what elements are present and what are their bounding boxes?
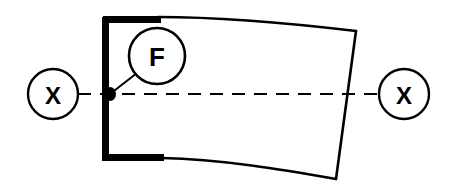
- section-marker-left[interactable]: X: [28, 69, 78, 119]
- diagram-canvas: F X X: [0, 0, 450, 190]
- section-marker-right-label: X: [396, 82, 412, 109]
- engineering-diagram: F X X: [0, 0, 450, 190]
- section-marker-right[interactable]: X: [379, 69, 429, 119]
- balloon-f[interactable]: F: [129, 28, 185, 84]
- datum-origin-dot: [104, 87, 116, 101]
- balloon-f-label: F: [149, 42, 165, 72]
- section-marker-left-label: X: [45, 82, 61, 109]
